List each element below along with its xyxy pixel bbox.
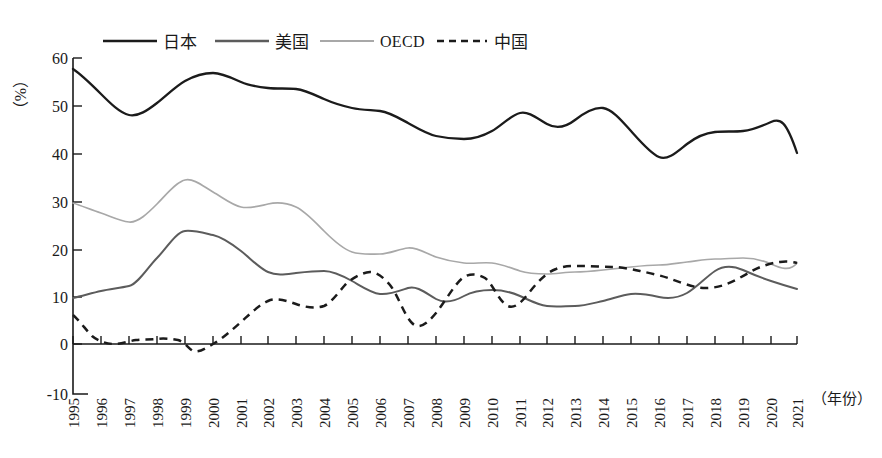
- y-axis-ticks: [73, 58, 82, 344]
- legend-item-china[interactable]: 中国: [437, 33, 528, 52]
- x-tick-label-2013: 2013: [568, 398, 584, 428]
- x-tick-label-2007: 2007: [401, 398, 417, 429]
- y-tick-label-60: 60: [52, 50, 68, 67]
- series-line-oecd: [73, 180, 797, 274]
- legend-label-china: 中国: [494, 33, 528, 52]
- x-tick-label-2012: 2012: [540, 398, 556, 428]
- legend-item-oecd[interactable]: OECD: [320, 33, 425, 50]
- legend-label-japan: 日本: [163, 33, 197, 52]
- x-tick-label-2002: 2002: [261, 398, 277, 428]
- x-tick-label-2015: 2015: [624, 398, 640, 428]
- x-tick-label-2003: 2003: [289, 398, 305, 428]
- x-tick-label-2014: 2014: [596, 398, 612, 429]
- legend-label-usa: 美国: [275, 33, 309, 52]
- x-tick-label-1996: 1996: [94, 398, 110, 429]
- legend-label-oecd: OECD: [380, 33, 425, 50]
- y-axis-tick-labels: 60 50 40 30 20 10 0 -10: [47, 50, 68, 403]
- series-line-usa: [73, 231, 797, 307]
- x-tick-label-1997: 1997: [122, 398, 138, 429]
- x-tick-label-2018: 2018: [708, 398, 724, 428]
- x-axis-tick-labels: 1995 1996 1997 1998 1999 2000 2001 2002 …: [66, 398, 806, 429]
- y-tick-label-10: 10: [52, 289, 68, 306]
- x-axis-ticks: [73, 336, 797, 344]
- x-tick-label-2005: 2005: [345, 398, 361, 428]
- y-tick-label-40: 40: [52, 146, 68, 163]
- x-tick-label-2001: 2001: [234, 398, 250, 428]
- y-tick-label-neg10: -10: [47, 386, 68, 403]
- y-tick-label-50: 50: [52, 98, 68, 115]
- x-tick-label-1995: 1995: [66, 398, 82, 428]
- x-tick-label-2011: 2011: [513, 398, 529, 427]
- x-tick-label-1999: 1999: [178, 398, 194, 428]
- y-tick-label-20: 20: [52, 242, 68, 259]
- x-tick-label-2006: 2006: [373, 398, 389, 429]
- legend-item-usa[interactable]: 美国: [215, 33, 309, 52]
- series-line-china: [73, 262, 797, 352]
- x-axis-label: （年份）: [812, 391, 872, 407]
- line-chart: 日本 美国 OECD 中国 （%）: [0, 0, 882, 458]
- y-tick-label-0: 0: [60, 336, 68, 353]
- legend-item-japan[interactable]: 日本: [103, 33, 197, 52]
- y-axis-unit-label: （%）: [12, 72, 29, 117]
- x-tick-label-2010: 2010: [485, 398, 501, 428]
- y-tick-label-30: 30: [52, 194, 68, 211]
- x-tick-label-2009: 2009: [457, 398, 473, 428]
- x-tick-label-2016: 2016: [652, 398, 668, 429]
- chart-container: 日本 美国 OECD 中国 （%）: [0, 0, 882, 458]
- x-tick-label-2020: 2020: [764, 398, 780, 428]
- x-tick-label-2008: 2008: [429, 398, 445, 428]
- x-tick-label-1998: 1998: [150, 398, 166, 428]
- x-tick-label-2004: 2004: [317, 398, 333, 429]
- y-axis-unit-text: （%）: [12, 72, 29, 117]
- x-tick-label-2021: 2021: [790, 398, 806, 428]
- x-tick-label-2017: 2017: [680, 398, 696, 429]
- series-line-japan: [73, 69, 797, 158]
- chart-legend: 日本 美国 OECD 中国: [103, 33, 528, 52]
- x-tick-label-2019: 2019: [736, 398, 752, 428]
- x-tick-label-2000: 2000: [206, 398, 222, 428]
